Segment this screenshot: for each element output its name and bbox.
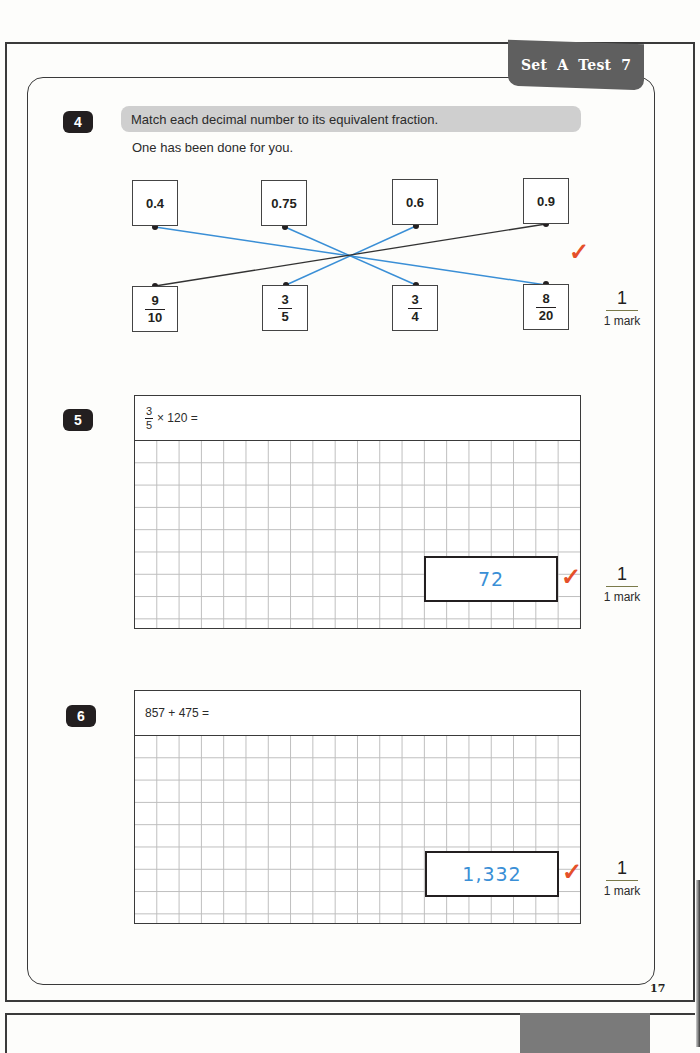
numerator: 3 (146, 406, 152, 417)
decimal-value: 0.4 (146, 196, 164, 211)
fraction-box-8-20[interactable]: 820 (523, 284, 569, 330)
tick-mark-icon: ✓ (561, 563, 581, 591)
tick-mark-icon: ✓ (562, 858, 582, 886)
mark-divider (606, 586, 638, 587)
working-grid[interactable]: 72 (135, 441, 580, 628)
answer-box[interactable]: 1,332 (425, 851, 559, 897)
page-number: 17 (650, 982, 665, 995)
denominator: 5 (146, 420, 152, 431)
mark-score: 1 (594, 858, 650, 878)
next-page-tab (520, 1013, 650, 1053)
answer-value: 1,332 (462, 863, 521, 885)
question-5-box: 3 5 × 120 = 72 (134, 395, 581, 629)
fraction-box-3-4[interactable]: 34 (392, 285, 438, 331)
mark-divider (606, 310, 638, 311)
decimal-box-0-9[interactable]: 0.9 (523, 178, 569, 224)
question-number-5: 5 (63, 409, 93, 431)
decimal-box-0-6[interactable]: 0.6 (392, 179, 438, 225)
prompt-text: × 120 = (157, 411, 198, 425)
decimal-value: 0.9 (537, 194, 555, 209)
mark-label: 1 mark (604, 884, 641, 898)
decimal-value: 0.6 (406, 195, 424, 210)
tick-mark-icon: ✓ (569, 238, 589, 266)
mark-allocation-q4: 1 1 mark (594, 288, 650, 328)
numerator: 3 (411, 293, 418, 307)
numerator: 3 (281, 293, 288, 307)
question-6-prompt: 857 + 475 = (135, 691, 580, 736)
mark-score: 1 (594, 288, 650, 308)
numerator: 8 (542, 292, 549, 306)
denominator: 5 (281, 310, 288, 324)
question-6-box: 857 + 475 = 1,332 (134, 690, 581, 924)
working-grid[interactable]: 1,332 (135, 736, 580, 923)
fraction-box-3-5[interactable]: 35 (262, 285, 308, 331)
numerator: 9 (151, 294, 158, 308)
fraction: 35 (278, 293, 292, 324)
instruction-text: Match each decimal number to its equival… (131, 112, 438, 127)
set-test-tab: Set A Test 7 (508, 40, 644, 91)
denominator: 4 (411, 310, 418, 324)
denominator: 10 (148, 311, 162, 325)
decimal-value: 0.75 (271, 196, 296, 211)
set-test-label: Set A Test 7 (521, 57, 631, 73)
fraction: 820 (536, 292, 556, 323)
answer-box[interactable]: 72 (424, 556, 558, 602)
page-edge-shadow (696, 880, 700, 1047)
fraction-box-9-10[interactable]: 910 (132, 286, 178, 332)
denominator: 20 (539, 309, 553, 323)
mark-score: 1 (594, 564, 650, 584)
decimal-box-0-75[interactable]: 0.75 (261, 180, 307, 226)
question-number-4: 4 (63, 111, 93, 133)
prompt-fraction: 3 5 (145, 406, 153, 431)
mark-label: 1 mark (604, 314, 641, 328)
fraction: 910 (145, 294, 165, 325)
answer-value: 72 (478, 568, 504, 590)
mark-divider (606, 880, 638, 881)
prompt-text: 857 + 475 = (145, 706, 209, 720)
question-number-6: 6 (66, 705, 96, 727)
question-4-instruction: Match each decimal number to its equival… (121, 106, 581, 132)
fraction: 34 (408, 293, 422, 324)
mark-label: 1 mark (604, 590, 641, 604)
decimal-box-0-4[interactable]: 0.4 (132, 180, 178, 226)
mark-allocation-q5: 1 1 mark (594, 564, 650, 604)
question-4-subtext: One has been done for you. (132, 140, 293, 155)
question-5-prompt: 3 5 × 120 = (135, 396, 580, 441)
mark-allocation-q6: 1 1 mark (594, 858, 650, 898)
